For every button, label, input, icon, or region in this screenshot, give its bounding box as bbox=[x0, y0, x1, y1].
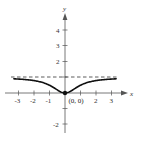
x-axis-label: x bbox=[129, 90, 134, 98]
x-tick-label: -1 bbox=[46, 97, 52, 105]
y-tick-label: 4 bbox=[56, 27, 60, 35]
x-tick-label: -3 bbox=[15, 97, 21, 105]
origin-point bbox=[63, 91, 67, 95]
y-tick-labels: 4 3 2 -2 bbox=[53, 27, 60, 129]
y-tick-label: 3 bbox=[56, 42, 60, 50]
y-axis-arrow-icon bbox=[63, 13, 68, 20]
y-axis-label: y bbox=[62, 5, 67, 13]
x-tick-label: 3 bbox=[110, 97, 114, 105]
origin-point-label: (0, 0) bbox=[69, 97, 85, 105]
function-graph: x y -3 -2 -1 2 3 4 3 2 -2 bbox=[0, 0, 141, 142]
x-tick-label: -2 bbox=[30, 97, 36, 105]
x-tick-labels: -3 -2 -1 2 3 bbox=[15, 97, 114, 105]
x-axis-arrow-icon bbox=[121, 91, 128, 96]
y-tick-label: -2 bbox=[53, 121, 59, 129]
x-tick-label: 2 bbox=[94, 97, 98, 105]
y-tick-label: 2 bbox=[56, 58, 60, 66]
y-axis: y bbox=[62, 5, 67, 133]
